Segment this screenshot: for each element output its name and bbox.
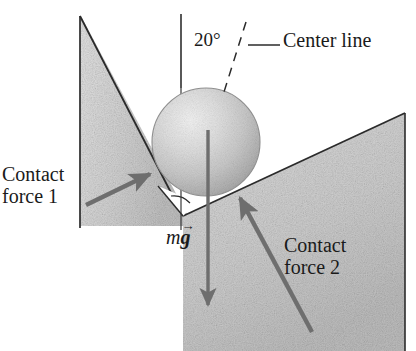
vector-arrow-accent: → xyxy=(181,219,194,232)
contact-force-1-line1: Contact xyxy=(2,163,64,185)
physics-diagram-sphere-in-v-groove: Contactforce 1 Contactforce 2 Center lin… xyxy=(0,0,416,351)
weight-gravity-symbol-wrapper: →g xyxy=(180,226,190,248)
contact-force-2-label: Contactforce 2 xyxy=(284,234,346,279)
weight-mass-symbol: m xyxy=(166,226,180,248)
contact-force-1-label: Contactforce 1 xyxy=(2,163,64,208)
weight-label: m→g xyxy=(166,226,190,248)
contact-force-2-line2: force 2 xyxy=(284,256,340,278)
angle-label: 20° xyxy=(194,29,221,50)
center-line-label: Center line xyxy=(283,29,371,51)
angle-dashed-line xyxy=(224,22,246,92)
contact-force-1-line2: force 1 xyxy=(2,185,58,207)
contact-force-2-line1: Contact xyxy=(284,234,346,256)
sphere xyxy=(152,88,260,196)
